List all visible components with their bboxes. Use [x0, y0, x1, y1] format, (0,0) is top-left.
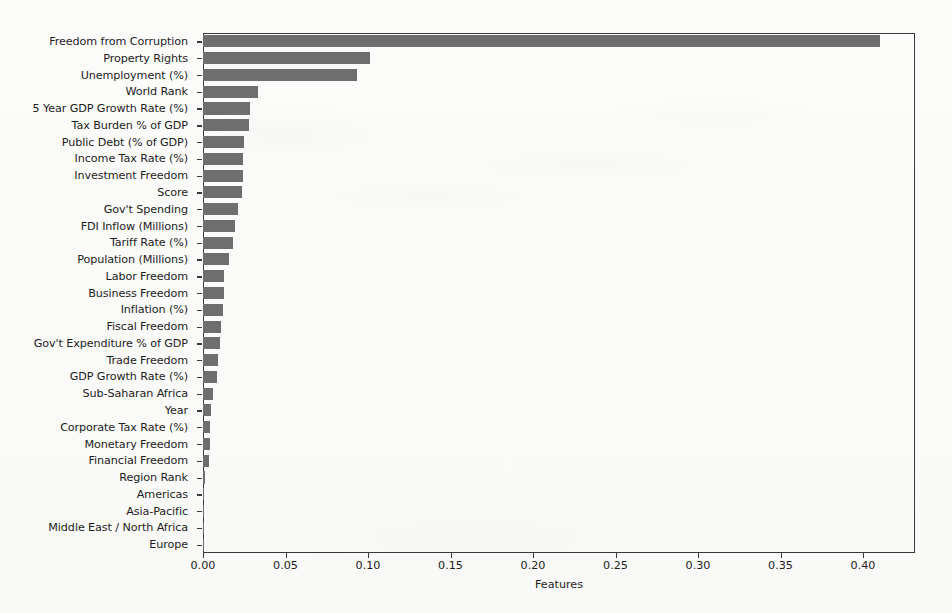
bar-row — [203, 318, 915, 335]
bar — [203, 388, 213, 400]
y-tick-mark — [197, 192, 202, 193]
y-tick-mark — [197, 159, 202, 160]
y-tick-label: Asia-Pacific — [126, 503, 188, 520]
y-tick-label: Investment Freedom — [74, 167, 188, 184]
y-tick-label: Sub-Saharan Africa — [83, 385, 188, 402]
x-tick-label: 0.30 — [668, 559, 728, 572]
bar — [203, 253, 229, 265]
y-tick-mark — [197, 310, 202, 311]
bar — [203, 304, 223, 316]
y-tick-label: GDP Growth Rate (%) — [70, 368, 188, 385]
bar — [203, 438, 210, 450]
bar — [203, 35, 880, 47]
y-tick-label: Financial Freedom — [89, 452, 188, 469]
y-tick-label: Unemployment (%) — [81, 67, 188, 84]
x-tick-mark — [863, 553, 864, 558]
y-tick-label: Business Freedom — [88, 285, 188, 302]
bar — [203, 170, 243, 182]
y-tick-mark — [197, 259, 202, 260]
y-tick-mark — [197, 92, 202, 93]
bar-row — [203, 201, 915, 218]
x-tick-mark — [698, 553, 699, 558]
bar-row — [203, 184, 915, 201]
bar-row — [203, 83, 915, 100]
bar — [203, 220, 235, 232]
y-tick-label: Tax Burden % of GDP — [72, 117, 188, 134]
y-tick-mark — [197, 528, 202, 529]
y-tick-mark — [197, 142, 202, 143]
bar-row — [203, 385, 915, 402]
bar-row — [203, 33, 915, 50]
bar — [203, 237, 233, 249]
bar-row — [203, 134, 915, 151]
bar-row — [203, 117, 915, 134]
x-tick-label: 0.00 — [173, 559, 233, 572]
y-tick-mark — [197, 494, 202, 495]
bar-row — [203, 368, 915, 385]
y-tick-label: Monetary Freedom — [85, 436, 188, 453]
bar — [203, 421, 210, 433]
bar-row — [203, 150, 915, 167]
y-tick-mark — [197, 444, 202, 445]
y-tick-label: World Rank — [125, 83, 188, 100]
bar-row — [203, 50, 915, 67]
bar-row — [203, 268, 915, 285]
x-tick-mark — [286, 553, 287, 558]
y-tick-mark — [197, 226, 202, 227]
bar-row — [203, 167, 915, 184]
bar-row — [203, 67, 915, 84]
y-tick-mark — [197, 58, 202, 59]
bar — [203, 102, 250, 114]
y-tick-mark — [197, 293, 202, 294]
bar — [203, 86, 258, 98]
bar — [203, 337, 220, 349]
y-tick-label: Population (Millions) — [77, 251, 188, 268]
bar — [203, 287, 224, 299]
bar-row — [203, 301, 915, 318]
y-tick-mark — [197, 343, 202, 344]
x-tick-label: 0.25 — [586, 559, 646, 572]
x-tick-mark — [533, 553, 534, 558]
bar — [203, 455, 209, 467]
y-tick-label: Corporate Tax Rate (%) — [60, 419, 188, 436]
y-tick-label: Region Rank — [119, 469, 188, 486]
bar-row — [203, 419, 915, 436]
bar — [203, 119, 249, 131]
y-tick-label: FDI Inflow (Millions) — [81, 218, 188, 235]
bar-row — [203, 100, 915, 117]
bar — [203, 354, 218, 366]
feature-importance-figure: Freedom from CorruptionProperty RightsUn… — [0, 0, 952, 613]
bar-row — [203, 452, 915, 469]
y-tick-mark — [197, 327, 202, 328]
x-tick-mark — [368, 553, 369, 558]
bar — [203, 471, 205, 483]
y-tick-label: Americas — [137, 486, 188, 503]
x-tick-mark — [781, 553, 782, 558]
y-tick-mark — [197, 75, 202, 76]
y-tick-mark — [197, 176, 202, 177]
bar-row — [203, 234, 915, 251]
bar — [203, 69, 357, 81]
x-axis-title: Features — [203, 578, 915, 591]
bar-row — [203, 519, 915, 536]
y-tick-label: Freedom from Corruption — [49, 33, 188, 50]
y-tick-mark — [197, 461, 202, 462]
bar-row — [203, 251, 915, 268]
y-tick-label: Public Debt (% of GDP) — [62, 134, 188, 151]
y-tick-label: Score — [157, 184, 188, 201]
y-tick-label: Year — [165, 402, 188, 419]
bar-row — [203, 352, 915, 369]
bar — [203, 186, 242, 198]
x-tick-label: 0.35 — [751, 559, 811, 572]
bar — [203, 153, 243, 165]
bar-row — [203, 536, 915, 553]
y-tick-mark — [197, 276, 202, 277]
bar — [203, 136, 244, 148]
bar — [203, 321, 221, 333]
bar-row — [203, 486, 915, 503]
x-tick-mark — [451, 553, 452, 558]
y-tick-label: Europe — [149, 536, 188, 553]
y-tick-mark — [197, 377, 202, 378]
y-tick-label: Tariff Rate (%) — [110, 234, 188, 251]
y-tick-mark — [197, 545, 202, 546]
